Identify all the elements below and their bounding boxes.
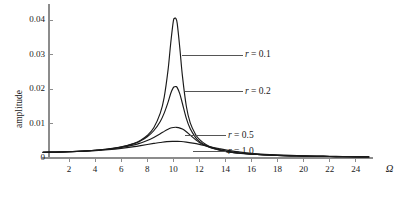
x-tick-label-6: 14	[215, 164, 235, 174]
axes-group	[42, 4, 373, 158]
tick-marks-group	[49, 20, 356, 162]
x-tick-label-1: 4	[85, 164, 105, 174]
curve-series-0	[43, 18, 369, 157]
resonance-amplitude-figure: 00.010.020.030.04 24681012141618202224 a…	[0, 0, 406, 199]
x-tick-label-0: 2	[59, 164, 79, 174]
x-tick-label-3: 8	[137, 164, 157, 174]
x-tick-label-10: 22	[320, 164, 340, 174]
series-label-value-0: = 0.1	[249, 49, 271, 59]
y-tick-label-4: 0.04	[19, 14, 45, 24]
y-tick-label-3: 0.03	[19, 49, 45, 59]
x-tick-label-11: 24	[346, 164, 366, 174]
curve-series-2	[43, 127, 369, 157]
series-label-value-2: = 0.5	[232, 130, 254, 140]
data-curves-group	[43, 18, 369, 157]
curve-series-3	[43, 141, 369, 156]
x-tick-label-7: 16	[241, 164, 261, 174]
x-tick-label-5: 12	[189, 164, 209, 174]
series-label-0: r = 0.1	[245, 49, 271, 59]
x-tick-label-9: 20	[294, 164, 314, 174]
series-label-value-1: = 0.2	[249, 86, 271, 96]
series-label-3: r = 1.0	[228, 146, 254, 156]
y-axis-title: amplitude	[14, 90, 24, 128]
y-tick-label-0: 0	[19, 152, 45, 162]
x-tick-label-8: 18	[268, 164, 288, 174]
x-axis-title: Ω	[386, 163, 394, 174]
series-label-1: r = 0.2	[245, 86, 271, 96]
series-label-value-3: = 1.0	[232, 146, 254, 156]
x-tick-label-4: 10	[163, 164, 183, 174]
x-tick-label-2: 6	[111, 164, 131, 174]
series-label-2: r = 0.5	[228, 130, 254, 140]
